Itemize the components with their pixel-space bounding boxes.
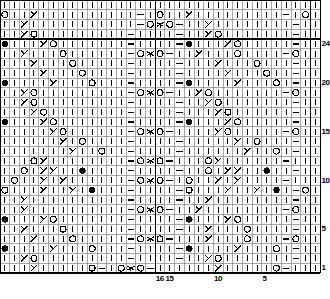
row-label-24: 24 (322, 40, 330, 48)
row-label-5: 5 (322, 225, 326, 233)
col-label-16: 16 (156, 275, 164, 283)
col-label-5: 5 (263, 275, 267, 283)
row-label-15: 15 (322, 128, 330, 136)
row-label-1: 1 (322, 264, 326, 272)
col-label-15: 15 (166, 275, 174, 283)
row-label-10: 10 (322, 177, 330, 185)
row-label-20: 20 (322, 79, 330, 87)
col-label-10: 10 (214, 275, 222, 283)
